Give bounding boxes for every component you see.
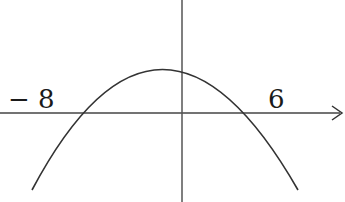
right-root-label: 6 <box>268 86 285 112</box>
parabola-diagram: − 8 6 <box>0 0 345 202</box>
left-root-label: − 8 <box>8 86 55 112</box>
parabola-curve <box>32 70 298 191</box>
